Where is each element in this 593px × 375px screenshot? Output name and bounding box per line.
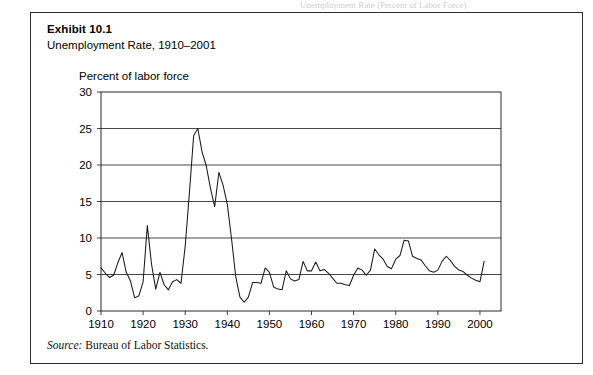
x-tick-labels: 1910192019301940195019601970198019902000 — [88, 318, 493, 330]
svg-text:30: 30 — [79, 86, 92, 98]
source-text: Bureau of Labor Statistics. — [85, 339, 208, 351]
svg-text:1990: 1990 — [425, 318, 451, 330]
svg-text:0: 0 — [86, 305, 92, 317]
gridlines — [101, 129, 501, 275]
svg-text:15: 15 — [79, 196, 92, 208]
source-prefix: Source: — [47, 339, 82, 351]
svg-text:1930: 1930 — [172, 318, 198, 330]
chart-area: 051015202530 191019201930194019501960197… — [31, 13, 584, 365]
svg-text:1980: 1980 — [383, 318, 409, 330]
svg-text:1910: 1910 — [88, 318, 114, 330]
svg-text:1940: 1940 — [215, 318, 241, 330]
source-note: Source: Bureau of Labor Statistics. — [47, 339, 209, 351]
exhibit-panel: Exhibit 10.1 Unemployment Rate, 1910–200… — [30, 12, 583, 364]
svg-text:10: 10 — [79, 232, 92, 244]
svg-text:2000: 2000 — [467, 318, 493, 330]
svg-text:25: 25 — [79, 123, 92, 135]
unemployment-line-chart: 051015202530 191019201930194019501960197… — [31, 13, 584, 365]
svg-text:20: 20 — [79, 159, 92, 171]
y-tick-labels: 051015202530 — [79, 86, 92, 317]
svg-text:1920: 1920 — [130, 318, 156, 330]
data-line-unemployment — [101, 129, 484, 303]
svg-text:1960: 1960 — [299, 318, 325, 330]
svg-text:1970: 1970 — [341, 318, 367, 330]
cutoff-header-text: Unemployment Rate (Percent of Labor Forc… — [300, 0, 590, 11]
svg-text:5: 5 — [86, 269, 92, 281]
svg-text:1950: 1950 — [257, 318, 283, 330]
